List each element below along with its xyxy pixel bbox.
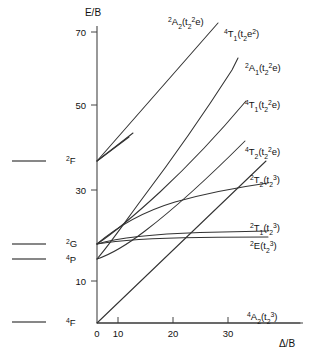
free-2G-base: G — [70, 238, 77, 249]
term-label-4T2-t2-2-e: 4T2(t22e) — [245, 146, 280, 160]
free-ion-label-2G: 2G — [66, 238, 77, 250]
label-cfg-tail: ) — [277, 222, 280, 233]
svg-text:2G: 2G — [66, 238, 77, 250]
y-tick-label-70: 70 — [75, 27, 86, 38]
label-cfg-tail: ) — [277, 174, 280, 185]
free-2F-base: F — [70, 155, 76, 166]
label-cfg-sub: 2 — [266, 247, 270, 254]
x-tick-label-20: 20 — [168, 328, 179, 339]
label-cfg-tail: ) — [274, 311, 277, 322]
label-cfg-sub: 2 — [188, 23, 192, 30]
label-cfg-close: ) — [256, 28, 259, 39]
label-cfg-tail: e) — [272, 99, 280, 110]
label-cfg-sub: 2 — [269, 181, 273, 188]
curve-2T2-t2-3 — [97, 183, 268, 244]
curve-2A1-t2-2-e — [97, 101, 246, 244]
curve-4T2-t2-2-e — [97, 161, 266, 323]
y-tick-label-10: 10 — [75, 276, 86, 287]
y-axis-title: E/B — [85, 7, 101, 18]
label-cfg-sub: 2 — [269, 229, 273, 236]
svg-text:2A2(t22e): 2A2(t22e) — [168, 16, 204, 30]
free-ion-label-4F: 4F — [66, 317, 76, 329]
free-4F-base: F — [70, 317, 76, 328]
label-cfg-tail: e) — [272, 62, 280, 73]
x-axis-title: Δ/B — [279, 338, 295, 349]
label-cfg-sub: 2 — [264, 153, 268, 160]
svg-text:4F: 4F — [66, 317, 76, 329]
term-label-4A2-t2-3: 4A2(t23) — [247, 311, 277, 325]
free-ion-label-2F: 2F — [66, 155, 76, 167]
svg-text:4T1(t22e): 4T1(t22e) — [245, 99, 280, 113]
label-cfg-tail: e) — [272, 146, 280, 157]
svg-text:4A2(t23): 4A2(t23) — [247, 311, 277, 325]
term-label-2T1-t2-3: 2T1(t23) — [250, 222, 280, 236]
svg-text:2E(t23): 2E(t23) — [250, 240, 277, 254]
label-cfg-tail: e) — [195, 16, 203, 27]
term-label-4T1-t2-e-2: 4T1(t2e2) — [224, 28, 259, 42]
svg-text:4T2(t22e): 4T2(t22e) — [245, 146, 280, 160]
svg-text:2A1(t22e): 2A1(t22e) — [245, 62, 281, 76]
y-tick-label-30: 30 — [75, 185, 86, 196]
x-tick-label-30: 30 — [223, 328, 234, 339]
svg-text:4T1(t2e2): 4T1(t2e2) — [224, 28, 259, 42]
label-cfg-tail: ) — [274, 240, 277, 251]
label-cfg-sub: 2 — [264, 106, 268, 113]
term-label-4T1-t2-2-e: 4T1(t22e) — [245, 99, 280, 113]
curve-2A2-t2-2-e — [97, 23, 218, 161]
svg-text:2F: 2F — [66, 155, 76, 167]
svg-text:2T1(t23): 2T1(t23) — [250, 222, 280, 236]
term-label-2A2-t2-2-e: 2A2(t22e) — [168, 16, 204, 30]
y-tick-label-50: 50 — [75, 100, 86, 111]
svg-text:4P: 4P — [66, 254, 76, 266]
label-cfg-sub: 2 — [265, 69, 269, 76]
term-label-2A1-t2-2-e: 2A1(t22e) — [245, 62, 281, 76]
curve-2F-fan-b — [97, 137, 129, 161]
free-ion-label-4P: 4P — [66, 254, 76, 266]
chart-canvas: E/B Δ/B 70 50 30 10 0 10 20 30 2F 2G 4P — [0, 0, 317, 359]
x-tick-label-10: 10 — [113, 328, 124, 339]
free-4P-base: P — [70, 254, 76, 265]
tanabe-sugano-diagram: E/B Δ/B 70 50 30 10 0 10 20 30 2F 2G 4P — [0, 0, 317, 359]
x-tick-label-0: 0 — [94, 328, 99, 339]
label-cfg-sub: 2 — [267, 318, 271, 325]
term-label-2E-t2-3: 2E(t23) — [250, 240, 277, 254]
